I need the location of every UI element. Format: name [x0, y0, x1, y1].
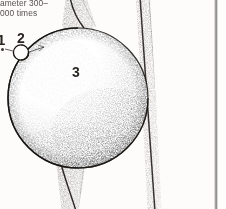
engraved-illustration	[0, 0, 226, 209]
callout-1-tick	[1, 48, 4, 51]
illustration-page: ameter 300– 000 times 1 2 3	[0, 0, 226, 209]
leader-line-1	[5, 49, 13, 51]
caption-line-2: 000 times	[0, 9, 80, 19]
figure-caption: ameter 300– 000 times	[0, 0, 80, 18]
scan-page-edge	[214, 0, 218, 209]
small-sphere	[13, 45, 28, 60]
callout-label-2: 2	[17, 31, 25, 45]
callout-label-3: 3	[72, 65, 80, 79]
callout-label-1: 1	[0, 32, 5, 47]
scan-page-margin	[219, 0, 226, 209]
